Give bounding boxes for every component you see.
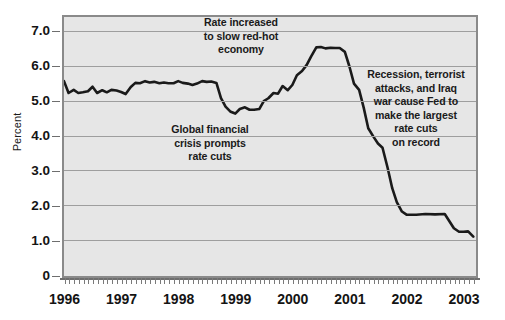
x-minor-tick xyxy=(160,278,161,284)
x-minor-tick xyxy=(193,278,194,284)
x-minor-tick xyxy=(402,278,403,284)
annotation-recession-terrorist-attacks: Recession, terroristattacks, and Iraqwar… xyxy=(355,68,477,149)
x-minor-tick xyxy=(283,278,284,284)
x-minor-tick xyxy=(174,278,175,284)
y-tick-label: 7.0 xyxy=(16,24,50,38)
chart-figure: Percent 01.02.03.04.05.06.07.0 199619971… xyxy=(0,0,505,320)
x-minor-tick xyxy=(255,278,256,284)
x-minor-tick xyxy=(212,278,213,284)
x-tick-label: 1997 xyxy=(92,291,152,307)
x-minor-tick xyxy=(312,278,313,284)
x-minor-tick xyxy=(202,278,203,284)
annotation-line: Global financial xyxy=(148,123,272,137)
x-minor-tick xyxy=(155,278,156,284)
annotation-line: make the largest xyxy=(355,109,477,123)
x-minor-tick xyxy=(445,278,446,284)
x-minor-tick xyxy=(298,278,299,284)
x-minor-tick xyxy=(383,278,384,284)
x-minor-tick xyxy=(397,278,398,284)
x-minor-tick xyxy=(279,278,280,284)
gridline xyxy=(64,170,476,171)
x-minor-tick xyxy=(136,278,137,284)
x-minor-tick xyxy=(65,278,66,284)
x-minor-tick xyxy=(436,278,437,284)
y-axis-tick-labels: 01.02.03.04.05.06.07.0 xyxy=(12,0,50,320)
x-minor-tick xyxy=(183,278,184,284)
x-minor-tick xyxy=(431,278,432,284)
annotation-global-financial-crisis: Global financialcrisis promptsrate cuts xyxy=(148,123,272,164)
x-minor-tick xyxy=(331,278,332,284)
x-minor-tick xyxy=(474,278,475,284)
x-minor-tick xyxy=(79,278,80,284)
y-tick-label: 2.0 xyxy=(16,199,50,213)
x-minor-tick xyxy=(450,278,451,284)
x-minor-tick xyxy=(269,278,270,284)
gridline xyxy=(64,240,476,241)
y-tick-label: 1.0 xyxy=(16,234,50,248)
x-minor-tick xyxy=(340,278,341,284)
x-minor-tick xyxy=(369,278,370,284)
x-minor-tick xyxy=(426,278,427,284)
x-minor-tick xyxy=(417,278,418,284)
x-minor-tick xyxy=(288,278,289,284)
annotation-line: crisis prompts xyxy=(148,137,272,151)
annotation-rate-increased: Rate increasedto slow red-hoteconomy xyxy=(176,16,306,57)
x-minor-tick xyxy=(93,278,94,284)
x-minor-tick xyxy=(407,278,408,284)
x-minor-tick xyxy=(112,278,113,284)
y-tick-label: 3.0 xyxy=(16,164,50,178)
x-minor-tick xyxy=(74,278,75,284)
x-minor-tick xyxy=(188,278,189,284)
x-minor-tick xyxy=(293,278,294,284)
x-tick-label: 1996 xyxy=(35,291,95,307)
x-minor-tick xyxy=(179,278,180,284)
x-tick-label: 2003 xyxy=(434,291,494,307)
x-tick-label: 1998 xyxy=(149,291,209,307)
x-tick-label: 2002 xyxy=(377,291,437,307)
y-tick-mark xyxy=(52,66,60,67)
gridline xyxy=(64,205,476,206)
x-minor-tick xyxy=(245,278,246,284)
annotation-line: attacks, and Iraq xyxy=(355,82,477,96)
x-minor-tick xyxy=(326,278,327,284)
x-minor-tick xyxy=(126,278,127,284)
annotation-line: rate cuts xyxy=(148,150,272,164)
y-tick-label: 6.0 xyxy=(16,59,50,73)
y-tick-mark xyxy=(52,31,60,32)
x-minor-tick xyxy=(264,278,265,284)
x-minor-tick xyxy=(117,278,118,284)
x-minor-tick xyxy=(440,278,441,284)
y-tick-mark xyxy=(52,136,60,137)
y-tick-label: 4.0 xyxy=(16,129,50,143)
y-tick-label: 5.0 xyxy=(16,94,50,108)
x-minor-tick xyxy=(317,278,318,284)
x-minor-tick xyxy=(464,278,465,284)
x-minor-tick xyxy=(236,278,237,284)
x-minor-tick xyxy=(207,278,208,284)
x-minor-tick xyxy=(217,278,218,284)
y-tick-mark xyxy=(52,241,60,242)
x-minor-tick xyxy=(69,278,70,284)
x-minor-tick xyxy=(378,278,379,284)
x-minor-tick xyxy=(388,278,389,284)
annotation-line: Recession, terrorist xyxy=(355,68,477,82)
x-minor-tick xyxy=(231,278,232,284)
x-minor-tick xyxy=(455,278,456,284)
x-tick-label: 2001 xyxy=(320,291,380,307)
x-minor-tick xyxy=(141,278,142,284)
x-minor-tick xyxy=(412,278,413,284)
annotation-line: Rate increased xyxy=(176,16,306,30)
annotation-line: rate cuts xyxy=(355,122,477,136)
x-minor-tick xyxy=(364,278,365,284)
y-tick-mark xyxy=(52,276,60,277)
x-minor-tick xyxy=(198,278,199,284)
x-minor-tick xyxy=(393,278,394,284)
x-minor-tick xyxy=(374,278,375,284)
x-minor-tick xyxy=(150,278,151,284)
x-minor-tick xyxy=(336,278,337,284)
x-minor-tick xyxy=(421,278,422,284)
x-minor-tick xyxy=(122,278,123,284)
x-minor-tick xyxy=(359,278,360,284)
x-minor-tick xyxy=(260,278,261,284)
annotation-line: economy xyxy=(176,43,306,57)
